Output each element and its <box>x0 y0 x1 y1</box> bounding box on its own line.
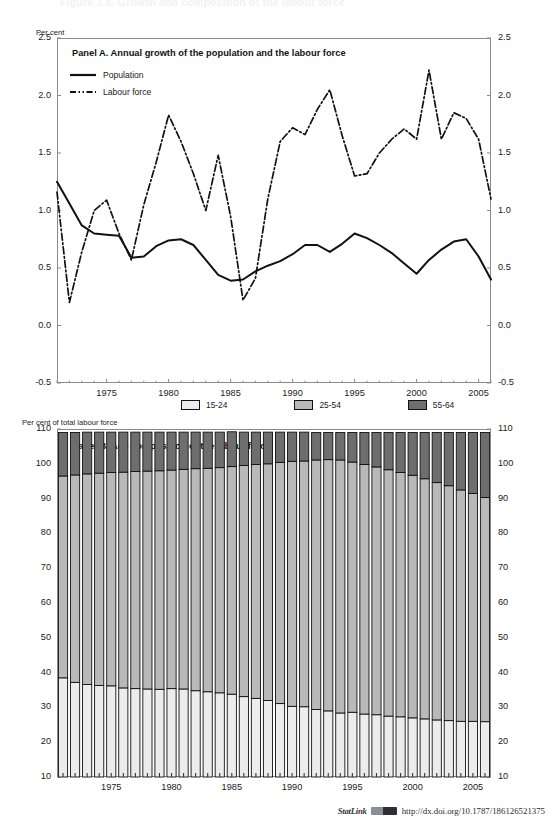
panel-b-ytick-right-10: 10 <box>498 771 538 781</box>
panel-b-bar <box>58 432 67 777</box>
panel-b-segment-15-24 <box>372 715 381 777</box>
panel-b-ytick-right-70: 70 <box>498 562 538 572</box>
panel-b-bar <box>348 432 357 777</box>
panel-b-segment-25-54 <box>263 464 272 701</box>
panel-b-segment-55-64 <box>420 432 429 478</box>
panel-b-segment-55-64 <box>95 432 104 473</box>
panel-b-segment-25-54 <box>167 470 176 689</box>
panel-b-segment-25-54 <box>300 461 309 707</box>
panel-b-segment-55-64 <box>251 432 260 464</box>
panel-b-bar <box>155 432 164 777</box>
panel-b-segment-25-54 <box>215 468 224 693</box>
panel-b-ytick-left-20: 20 <box>11 736 51 746</box>
panel-b-bar <box>384 432 393 777</box>
panel-b-segment-15-24 <box>143 689 152 777</box>
panel-b-segment-15-24 <box>312 709 321 777</box>
panel-b-bar <box>215 432 224 777</box>
panel-b-ytick-left-100: 100 <box>11 458 51 468</box>
panel-b-segment-15-24 <box>167 689 176 777</box>
panel-b-segment-55-64 <box>300 432 309 461</box>
panel-b-segment-55-64 <box>71 432 80 474</box>
panel-b-segment-25-54 <box>348 462 357 712</box>
panel-b-bar <box>143 432 152 777</box>
panel-b-ytick-right-80: 80 <box>498 527 538 537</box>
panel-b-segment-25-54 <box>119 472 128 688</box>
panel-b-segment-25-54 <box>384 470 393 716</box>
panel-b-segment-15-24 <box>203 692 212 777</box>
panel-b-segment-55-64 <box>432 432 441 482</box>
panel-b-segment-15-24 <box>251 698 260 777</box>
panel-b-segment-25-54 <box>456 490 465 721</box>
panel-b-ytick-right-50: 50 <box>498 632 538 642</box>
panel-b-bar <box>167 432 176 777</box>
panel-b-segment-55-64 <box>167 432 176 470</box>
panel-b-segment-55-64 <box>107 432 116 472</box>
panel-b-bar <box>456 432 465 777</box>
panel-b-segment-25-54 <box>396 473 405 717</box>
panel-b-ytick-right-30: 30 <box>498 701 538 711</box>
panel-b-segment-55-64 <box>239 432 248 465</box>
panel-b-segment-15-24 <box>348 712 357 777</box>
panel-b-segment-55-64 <box>215 432 224 468</box>
panel-b-segment-55-64 <box>444 432 453 485</box>
panel-b-bar <box>408 432 417 777</box>
panel-b-segment-55-64 <box>312 432 321 459</box>
panel-b-segment-55-64 <box>263 432 272 464</box>
panel-b-bar <box>468 432 477 777</box>
statlink-label: StatLink <box>338 806 367 816</box>
panel-b-segment-55-64 <box>360 432 369 464</box>
panel-b-bar <box>288 432 297 777</box>
panel-b-ytick-right-40: 40 <box>498 667 538 677</box>
panel-b-ytick-left-50: 50 <box>11 632 51 642</box>
panel-b-segment-25-54 <box>468 493 477 721</box>
panel-b-segment-25-54 <box>143 471 152 689</box>
panel-b-segment-25-54 <box>239 466 248 697</box>
panel-b-bar <box>131 432 140 777</box>
panel-b-segment-55-64 <box>396 432 405 472</box>
panel-b-ytick-left-80: 80 <box>11 527 51 537</box>
panel-b-ytick-right-100: 100 <box>498 458 538 468</box>
panel-b-bar <box>203 432 212 777</box>
panel-b-segment-55-64 <box>119 432 128 472</box>
panel-b-segment-25-54 <box>372 467 381 715</box>
panel-b-bar <box>263 432 272 777</box>
panel-b-bar <box>179 432 188 777</box>
panel-b-segment-55-64 <box>275 432 284 462</box>
panel-b-segment-55-64 <box>456 432 465 489</box>
panel-b-segment-55-64 <box>203 432 212 468</box>
panel-b-segment-15-24 <box>58 678 67 777</box>
panel-b-segment-55-64 <box>288 432 297 461</box>
panel-b-segment-15-24 <box>480 722 489 777</box>
panel-b-bar <box>336 432 345 777</box>
panel-b-ytick-left-70: 70 <box>11 562 51 572</box>
panel-b-bar <box>275 432 284 777</box>
panel-b-segment-25-54 <box>408 475 417 718</box>
statlink-footer[interactable]: StatLink http://dx.doi.org/10.1787/18612… <box>338 806 545 816</box>
panel-b-segment-25-54 <box>203 468 212 691</box>
panel-b-segment-25-54 <box>360 465 369 715</box>
panel-b-segment-25-54 <box>58 476 67 678</box>
panel-b-segment-15-24 <box>396 717 405 777</box>
panel-b-segment-55-64 <box>336 432 345 459</box>
panel-b-segment-55-64 <box>143 432 152 471</box>
panel-b-bar <box>95 432 104 777</box>
figure-page: Figure 1.8. Growth and composition of th… <box>0 0 549 819</box>
panel-b-segment-55-64 <box>227 432 236 467</box>
panel-b-segment-15-24 <box>191 691 200 777</box>
panel-b-xtick-1990: 1990 <box>272 782 312 792</box>
panel-b-xtick-1985: 1985 <box>212 782 252 792</box>
statlink-url[interactable]: http://dx.doi.org/10.1787/186126521375 <box>402 806 545 816</box>
panel-b-segment-15-24 <box>83 684 92 777</box>
panel-b-segment-25-54 <box>71 475 80 682</box>
panel-b-segment-55-64 <box>468 432 477 493</box>
panel-b-segment-55-64 <box>179 432 188 469</box>
panel-b-bar <box>432 432 441 777</box>
panel-b-segment-25-54 <box>444 486 453 721</box>
panel-b-xtick-2000: 2000 <box>393 782 433 792</box>
panel-b-segment-15-24 <box>263 700 272 777</box>
panel-b-segment-55-64 <box>372 432 381 466</box>
panel-b-ytick-left-60: 60 <box>11 597 51 607</box>
panel-b-ytick-left-10: 10 <box>11 771 51 781</box>
panel-b-segment-15-24 <box>300 707 309 777</box>
panel-b-segment-25-54 <box>288 461 297 706</box>
